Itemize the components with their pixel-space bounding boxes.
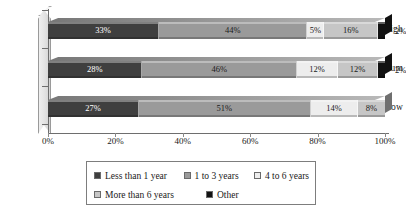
segment-value-label: 44%	[225, 26, 241, 35]
segment-outside-label: 2%	[395, 26, 406, 36]
legend-label: 1 to 3 years	[195, 171, 239, 181]
bar-end-cap	[385, 53, 392, 74]
bar-segment[interactable]: 14%	[311, 100, 358, 117]
bar-row: 28%46%12%12%2%	[0, 57, 403, 78]
bar-segment[interactable]: 46%	[142, 61, 297, 78]
segment-value-label: 27%	[85, 104, 101, 113]
bar-segment[interactable]: 28%	[48, 61, 142, 78]
bar-segment[interactable]	[378, 22, 385, 39]
segment-value-label: 14%	[326, 104, 342, 113]
segment-value-label: 16%	[343, 26, 359, 35]
x-axis-line	[48, 133, 389, 134]
legend-item[interactable]: Less than 1 year	[94, 171, 184, 181]
legend-item[interactable]: 1 to 3 years	[184, 171, 254, 181]
bar-medium[interactable]: 28%46%12%12%	[48, 61, 385, 78]
legend-item[interactable]: Other	[206, 190, 239, 200]
bar-segment[interactable]: 27%	[48, 100, 139, 117]
bar-low[interactable]: 27%51%14%8%	[48, 100, 385, 117]
segment-value-label: 28%	[87, 65, 103, 74]
legend-label: Other	[217, 190, 239, 200]
bar-segment[interactable]: 33%	[48, 22, 159, 39]
legend-label: 4 to 6 years	[265, 171, 309, 181]
bar-row: 33%44%5%16%2%	[0, 18, 403, 39]
segment-outside-label: 2%	[395, 65, 406, 75]
bar-row: 27%51%14%8%	[0, 96, 403, 117]
x-axis-tick-label: 20%	[107, 136, 124, 146]
y-axis-tick	[42, 124, 48, 125]
segment-value-label: 12%	[350, 65, 366, 74]
y-axis-tick	[42, 48, 48, 49]
legend-swatch	[206, 191, 213, 198]
x-axis-tick-label: 100%	[375, 136, 396, 146]
segment-value-label: 5%	[310, 26, 321, 35]
y-axis-tick	[42, 10, 48, 11]
bar-segment[interactable]: 51%	[139, 100, 311, 117]
segment-value-label: 51%	[217, 104, 233, 113]
bar-end-cap	[385, 14, 392, 35]
bar-segment[interactable]: 12%	[297, 61, 337, 78]
legend-item[interactable]: More than 6 years	[94, 190, 206, 200]
bar-high[interactable]: 33%44%5%16%	[48, 22, 385, 39]
legend-item[interactable]: 4 to 6 years	[254, 171, 309, 181]
legend-row: More than 6 yearsOther	[94, 185, 309, 204]
bar-end-cap	[385, 92, 392, 113]
bar-segment[interactable]: 44%	[159, 22, 307, 39]
x-axis-tick-label: 80%	[309, 136, 326, 146]
y-axis-tick	[42, 86, 48, 87]
legend-label: More than 6 years	[105, 190, 174, 200]
bar-segment[interactable]: 5%	[307, 22, 324, 39]
bar-segment[interactable]: 8%	[358, 100, 385, 117]
x-axis-tick-label: 0%	[42, 136, 54, 146]
segment-value-label: 33%	[95, 26, 111, 35]
x-axis-tick-label: 60%	[242, 136, 259, 146]
bar-segment[interactable]: 16%	[324, 22, 378, 39]
bar-segment[interactable]	[378, 61, 385, 78]
segment-value-label: 12%	[309, 65, 325, 74]
legend-swatch	[94, 172, 101, 179]
segment-value-label: 46%	[212, 65, 228, 74]
legend-row: Less than 1 year1 to 3 years4 to 6 years	[94, 166, 309, 185]
bar-segment[interactable]: 12%	[338, 61, 378, 78]
segment-value-label: 8%	[366, 104, 377, 113]
legend-label: Less than 1 year	[105, 171, 167, 181]
legend-swatch	[184, 172, 191, 179]
legend-swatch	[254, 172, 261, 179]
legend-swatch	[94, 191, 101, 198]
x-axis-tick-label: 40%	[175, 136, 192, 146]
chart-legend: Less than 1 year1 to 3 years4 to 6 years…	[86, 161, 316, 205]
